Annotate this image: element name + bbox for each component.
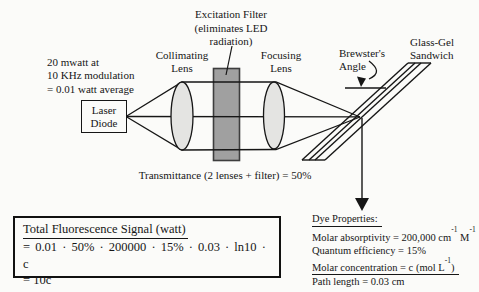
dye-quantum-efficiency: Quantum efficiency = 15% xyxy=(312,244,476,258)
concentration-underlined: Molar concentration = c (mol L-1) xyxy=(312,257,459,275)
collimating-lens-label: Collimating Lens xyxy=(156,49,209,76)
signal-result: = 10c xyxy=(23,272,271,289)
laser-power-label: 20 mwatt at 10 KHz modulation = 0.01 wat… xyxy=(47,56,134,96)
laser-power-line2: 10 KHz modulation xyxy=(47,69,134,82)
concentration-suffix: ) xyxy=(451,262,455,273)
brewster-angle-label-line1: Brewster's xyxy=(339,47,385,60)
laser-power-line1: 20 mwatt at xyxy=(47,56,134,69)
laser-diode-box: Laser Diode xyxy=(81,100,127,133)
dye-pointer-arrow xyxy=(355,118,369,211)
focusing-lens-label-line2: Lens xyxy=(261,62,301,75)
absorptivity-mid: M xyxy=(457,231,469,242)
focusing-lens-shape xyxy=(264,82,285,149)
glass-gel-sandwich-label: Glass-Gel Sandwich xyxy=(410,36,454,63)
collimating-lens-label-line2: Lens xyxy=(156,62,209,75)
dye-path-length: Path length = 0.03 cm xyxy=(312,275,476,289)
excitation-filter-label-line3: radiation) xyxy=(194,35,267,49)
dye-molar-concentration: Molar concentration = c (mol L-1) xyxy=(312,257,476,275)
dye-properties-title-text: Dye Properties: xyxy=(312,212,382,227)
brewster-angle-label: Brewster's Angle xyxy=(339,47,385,74)
focusing-lens-label-line1: Focusing xyxy=(261,49,301,62)
transmittance-label: Transmittance (2 lenses + filter) = 50% xyxy=(139,169,312,182)
glass-gel-label-line1: Glass-Gel xyxy=(410,36,454,49)
signal-box-title-text: Total Fluorescence Signal (watt) xyxy=(23,221,188,239)
excitation-filter-label-line1: Excitation Filter xyxy=(194,8,267,22)
laser-diode-label-line2: Diode xyxy=(91,117,118,130)
excitation-filter-label-line2: (eliminates LED xyxy=(194,22,267,36)
focusing-lens-label: Focusing Lens xyxy=(261,49,301,76)
absorptivity-sup2: -1 xyxy=(469,225,475,234)
glass-gel-label-line2: Sandwich xyxy=(410,49,454,62)
dye-properties-list: Dye Properties: Molar absorptivity = 200… xyxy=(312,212,476,289)
collimating-lens-shape xyxy=(171,82,193,150)
total-fluorescence-signal-box: Total Fluorescence Signal (watt) = 0.01 … xyxy=(13,216,281,278)
excitation-filter-label: Excitation Filter (eliminates LED radiat… xyxy=(194,8,267,49)
beam-top-ray xyxy=(126,82,360,117)
signal-equation: = 0.01 · 50% · 200000 · 15% · 0.03 · ln1… xyxy=(23,239,271,273)
signal-box-title: Total Fluorescence Signal (watt) xyxy=(23,221,271,239)
collimating-lens-label-line1: Collimating xyxy=(156,49,209,62)
concentration-text: Molar concentration = c (mol L xyxy=(312,262,445,273)
laser-power-line3: = 0.01 watt average xyxy=(47,83,134,96)
down-arrowhead-icon xyxy=(355,198,369,211)
dye-molar-absorptivity: Molar absorptivity = 200,000 cm-1 M-1 xyxy=(312,227,476,244)
concentration-sup: -1 xyxy=(445,256,451,265)
brewster-arrowhead-icon xyxy=(357,77,366,88)
absorptivity-text: Molar absorptivity = 200,000 cm xyxy=(312,231,451,242)
brewster-angle-label-line2: Angle xyxy=(339,60,385,73)
laser-diode-label-line1: Laser xyxy=(92,104,116,117)
absorptivity-sup1: -1 xyxy=(451,225,457,234)
glass-gel-sandwich-shape xyxy=(302,63,431,160)
fluorescence-optics-diagram: Excitation Filter (eliminates LED radiat… xyxy=(0,0,479,292)
